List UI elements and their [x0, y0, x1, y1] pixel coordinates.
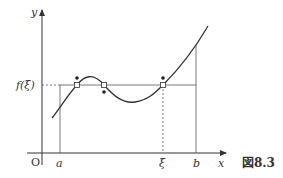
intersection-marker — [102, 83, 107, 88]
x-axis-label: x — [218, 157, 225, 170]
origin-label: O — [31, 156, 40, 169]
intersection-marker — [75, 83, 80, 88]
filled-dot — [161, 76, 165, 80]
filled-dot — [102, 90, 106, 94]
curve-f — [52, 26, 208, 118]
filled-dot — [75, 76, 79, 80]
tick-label-b: b — [193, 157, 200, 170]
y-axis-label: y — [30, 6, 38, 19]
intersection-marker — [161, 83, 166, 88]
f-xi-label: f(ξ) — [15, 79, 35, 92]
tick-label-xi: ξ — [159, 157, 166, 170]
mean-value-diagram: y f(ξ) O a ξ b x 図8.3 — [0, 0, 283, 178]
figure-caption: 図8.3 — [242, 156, 275, 170]
tick-label-a: a — [56, 157, 63, 170]
